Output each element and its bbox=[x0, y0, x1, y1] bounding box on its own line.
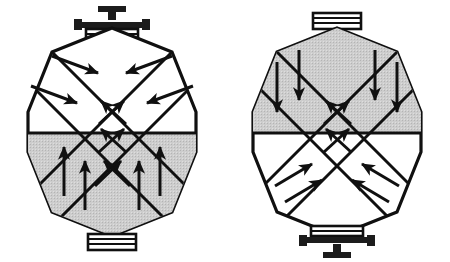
left-bottom-flange-fitting bbox=[88, 234, 136, 250]
figure-stage: Two octagonal vessel cross-sections with… bbox=[0, 0, 450, 262]
vessel-flow-diagram bbox=[0, 0, 450, 262]
right-bottom-valve-fitting bbox=[299, 226, 375, 258]
right-vessel-panel bbox=[245, 13, 435, 258]
left-vessel-panel bbox=[20, 6, 210, 250]
